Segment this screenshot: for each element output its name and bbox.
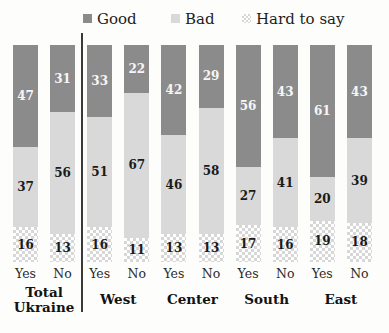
bar-segment-hard-to-say: 13	[199, 234, 224, 262]
segment-value-label: 22	[128, 63, 145, 75]
bar-segment-hard-to-say: 16	[13, 227, 38, 262]
segment-value-label: 20	[314, 193, 331, 205]
bar-segment-hard-to-say: 13	[161, 234, 186, 262]
x-tick-label-yes: Yes	[230, 266, 267, 281]
segment-value-label: 37	[17, 181, 34, 193]
segment-value-label: 17	[240, 238, 257, 250]
bar-segment-good: 56	[236, 45, 261, 167]
bar-east-no: 433918	[347, 45, 372, 262]
bar-segment-hard-to-say: 18	[347, 223, 372, 262]
bar-segment-hard-to-say: 16	[87, 227, 112, 262]
segment-value-label: 41	[277, 177, 294, 189]
x-tick-label-no: No	[267, 266, 304, 281]
segment-value-label: 19	[314, 235, 331, 247]
x-tick-label-yes: Yes	[304, 266, 341, 281]
bar-south-no: 434116	[273, 45, 298, 262]
bar-segment-bad: 51	[87, 117, 112, 228]
bar-segment-good: 22	[124, 45, 149, 93]
bar-segment-hard-to-say: 19	[310, 221, 335, 262]
bar-segment-bad: 37	[13, 147, 38, 227]
bar-segment-good: 33	[87, 45, 112, 117]
segment-value-label: 18	[351, 236, 368, 248]
bar-west-yes: 335116	[87, 45, 112, 262]
bar-segment-bad: 27	[236, 167, 261, 226]
bar-center-no: 295813	[199, 45, 224, 262]
x-tick-label-no: No	[118, 266, 155, 281]
segment-value-label: 16	[17, 239, 34, 251]
segment-value-label: 16	[277, 239, 294, 251]
x-tick-label-yes: Yes	[7, 266, 44, 281]
bar-segment-hard-to-say: 13	[50, 234, 75, 262]
x-tick-label-no: No	[341, 266, 378, 281]
bar-segment-hard-to-say: 17	[236, 225, 261, 262]
segment-value-label: 42	[166, 84, 183, 96]
segment-value-label: 33	[91, 75, 108, 87]
segment-value-label: 39	[351, 175, 368, 187]
segment-value-label: 29	[203, 70, 220, 82]
bar-segment-hard-to-say: 16	[273, 227, 298, 262]
bar-segment-bad: 46	[161, 135, 186, 234]
bar-segment-good: 29	[199, 45, 224, 108]
bar-segment-good: 43	[273, 45, 298, 138]
bar-west-no: 226711	[124, 45, 149, 262]
bar-east-yes: 612019	[310, 45, 335, 262]
segment-value-label: 13	[166, 242, 183, 254]
bar-segment-good: 47	[13, 45, 38, 147]
group-label-east: East	[296, 284, 386, 316]
segment-value-label: 43	[351, 86, 368, 98]
bar-segment-good: 42	[161, 45, 186, 135]
x-tick-label-yes: Yes	[81, 266, 118, 281]
segment-value-label: 56	[240, 100, 257, 112]
segment-value-label: 67	[128, 159, 145, 171]
segment-value-label: 13	[54, 242, 71, 254]
bar-segment-bad: 20	[310, 177, 335, 220]
bar-segment-bad: 41	[273, 138, 298, 227]
x-tick-label-yes: Yes	[155, 266, 192, 281]
bar-segment-good: 43	[347, 45, 372, 138]
segment-value-label: 51	[91, 166, 108, 178]
plot-area: 473716Yes315613NoTotal Ukraine335116Yes2…	[0, 0, 389, 333]
bar-center-yes: 424613	[161, 45, 186, 262]
bar-segment-bad: 58	[199, 108, 224, 234]
bar-total-ukraine-no: 315613	[50, 45, 75, 262]
segment-value-label: 61	[314, 105, 331, 117]
bar-segment-hard-to-say: 11	[124, 238, 149, 262]
segment-value-label: 43	[277, 86, 294, 98]
segment-value-label: 16	[91, 239, 108, 251]
segment-value-label: 46	[166, 179, 183, 191]
group-label-total-ukraine: Total Ukraine	[9, 284, 79, 316]
segment-value-label: 31	[54, 73, 71, 85]
x-tick-label-no: No	[193, 266, 230, 281]
bar-segment-good: 61	[310, 45, 335, 177]
survey-stacked-bar-chart: Good Bad Hard to say 473716Yes315613NoTo…	[0, 0, 389, 333]
x-tick-label-no: No	[44, 266, 81, 281]
segment-value-label: 47	[17, 90, 34, 102]
segment-value-label: 58	[203, 165, 220, 177]
bar-segment-bad: 67	[124, 93, 149, 238]
bar-total-ukraine-yes: 473716	[13, 45, 38, 262]
segment-value-label: 27	[240, 190, 257, 202]
bar-segment-bad: 39	[347, 138, 372, 223]
segment-value-label: 56	[54, 167, 71, 179]
segment-value-label: 11	[128, 244, 145, 256]
bar-segment-bad: 56	[50, 112, 75, 234]
bar-segment-good: 31	[50, 45, 75, 112]
segment-value-label: 13	[203, 242, 220, 254]
bar-south-yes: 562717	[236, 45, 261, 262]
